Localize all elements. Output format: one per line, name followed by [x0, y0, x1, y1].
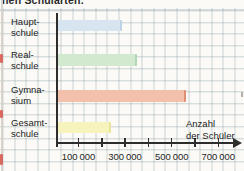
- x-axis-title: Anzahl der Schüler: [186, 118, 235, 141]
- category-label-line: Real-: [11, 49, 57, 61]
- category-label-line: Gymna-: [11, 84, 57, 96]
- scan-artifact-gray-mark: [241, 92, 243, 97]
- x-axis-tick: [124, 138, 126, 147]
- x-axis-tick: [101, 138, 103, 147]
- x-axis-title-line: Anzahl: [186, 118, 235, 130]
- category-label-line: sium: [11, 95, 57, 107]
- y-axis-line: [56, 13, 58, 147]
- category-label-line: schule: [11, 27, 57, 39]
- category-label-hauptschule: Haupt- schule: [11, 16, 57, 39]
- scanned-bar-chart-page: nen Schularten. Haupt- schule Real- schu…: [0, 0, 244, 171]
- scan-artifact-red-mark: [0, 110, 3, 118]
- category-label-line: schule: [11, 128, 57, 140]
- x-axis-tick-label: 700 000: [195, 151, 241, 162]
- bar-gymnasium: [57, 90, 186, 102]
- category-label-gesamtschule: Gesamt- schule: [11, 117, 57, 140]
- x-axis-tick: [78, 138, 80, 147]
- scan-artifact-red-mark: [0, 54, 3, 63]
- page-edge-line: [1, 0, 3, 171]
- x-axis-tick-label: 100 000: [56, 151, 102, 162]
- category-label-line: Gesamt-: [11, 117, 57, 129]
- category-label-line: schule: [11, 60, 57, 72]
- category-label-line: Haupt-: [11, 16, 57, 28]
- x-axis-title-line: der Schüler: [186, 130, 235, 142]
- category-label-realschule: Real- schule: [11, 49, 57, 72]
- bar-gesamtschule: [57, 122, 111, 134]
- caption-fragment: nen Schularten.: [2, 0, 84, 6]
- x-axis-tick-label: 300 000: [102, 151, 148, 162]
- bar-realschule: [57, 54, 137, 66]
- bar-hauptschule: [57, 20, 122, 32]
- x-axis-tick-label: 500 000: [149, 151, 195, 162]
- x-axis-tick: [171, 138, 173, 147]
- x-axis-tick: [148, 138, 150, 147]
- category-label-gymnasium: Gymna- sium: [11, 84, 57, 107]
- scan-artifact-red-mark: [0, 154, 3, 165]
- x-axis-line: [56, 142, 237, 144]
